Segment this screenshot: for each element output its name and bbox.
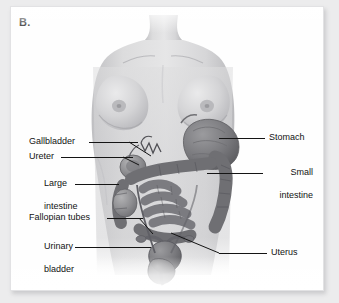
label-large-intestine-line1: Large xyxy=(44,178,67,188)
label-urinary-bladder-line2: bladder xyxy=(44,264,74,274)
leader-stomach xyxy=(219,138,265,139)
label-urinary-bladder: Urinary bladder xyxy=(29,229,74,287)
label-large-intestine-line2: intestine xyxy=(44,201,78,211)
label-small-intestine-line1: Small xyxy=(290,167,313,177)
figure-panel: B. xyxy=(10,6,324,291)
label-urinary-bladder-line1: Urinary xyxy=(44,241,73,251)
leader-uterus xyxy=(219,253,267,254)
label-stomach: Stomach xyxy=(269,132,305,144)
label-gallbladder: Gallbladder xyxy=(29,136,75,148)
label-small-intestine: Small intestine xyxy=(207,155,313,213)
label-ureter: Ureter xyxy=(29,151,54,163)
leader-ureter-hook xyxy=(123,151,147,173)
leader-large-intestine xyxy=(75,184,119,185)
label-small-intestine-line2: intestine xyxy=(279,190,313,200)
leader-fallopian-hook xyxy=(139,212,167,240)
figure-root: B. xyxy=(0,0,339,303)
leader-urinary-bladder xyxy=(75,247,151,248)
leader-fallopian-tubes xyxy=(107,218,143,219)
label-uterus: Uterus xyxy=(271,247,298,259)
label-fallopian-tubes: Fallopian tubes xyxy=(29,212,90,224)
leader-uterus-hook xyxy=(171,231,225,257)
